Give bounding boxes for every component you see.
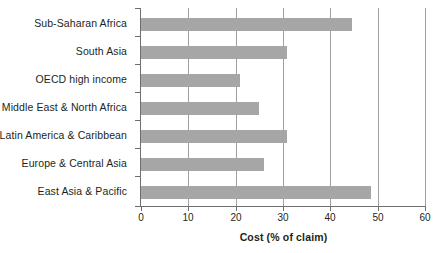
y-axis-tick-mark [135,8,141,9]
y-axis-tick-label: South Asia [76,46,127,58]
x-axis-tick-mark [283,206,284,211]
x-axis-tick-label: 0 [138,212,144,223]
x-axis-tick-mark [141,206,142,211]
bar-oecd-high-income[interactable] [141,74,240,87]
x-axis-tick-label: 50 [372,212,383,223]
y-axis-tick-label: Middle East & North Africa [2,102,127,114]
y-axis-label-row: South Asia [0,38,134,66]
bar-east-asia-pacific[interactable] [141,186,371,199]
x-axis-tick-label: 20 [230,212,241,223]
y-axis-category-labels: Sub-Saharan Africa South Asia OECD high … [0,10,134,206]
x-axis-tick-mark [236,206,237,211]
y-axis-label-row: Middle East & North Africa [0,94,134,122]
y-axis-tick-label: Latin America & Caribbean [0,130,127,142]
x-axis-tick-mark [378,206,379,211]
y-axis-label-row: Sub-Saharan Africa [0,10,134,38]
bar-chart: Sub-Saharan Africa South Asia OECD high … [0,0,440,253]
bar-row [141,10,425,38]
y-axis-tick-label: OECD high income [36,74,127,86]
y-axis-label-row: OECD high income [0,66,134,94]
bar-row [141,178,425,206]
bars-layer [141,10,425,206]
y-axis-label-row: East Asia & Pacific [0,178,134,206]
x-axis-tick-label: 10 [182,212,193,223]
y-axis-tick-label: East Asia & Pacific [38,186,127,198]
x-axis-tick-label: 30 [277,212,288,223]
y-axis-label-row: Latin America & Caribbean [0,122,134,150]
bar-south-asia[interactable] [141,46,287,59]
y-axis-tick-label: Europe & Central Asia [22,158,127,170]
bar-row [141,122,425,150]
x-axis-tick-label: 60 [419,212,430,223]
bar-row [141,150,425,178]
y-axis-label-row: Europe & Central Asia [0,150,134,178]
bar-europe-central-asia[interactable] [141,158,264,171]
x-axis-tick-label: 40 [324,212,335,223]
bar-row [141,38,425,66]
bar-middle-east-north-africa[interactable] [141,102,259,115]
bar-latin-america-caribbean[interactable] [141,130,287,143]
bar-sub-saharan-africa[interactable] [141,18,352,31]
x-axis-title: Cost (% of claim) [141,231,426,243]
bar-row [141,66,425,94]
gridline-60 [425,8,426,206]
bar-row [141,94,425,122]
x-axis-tick-mark [425,206,426,211]
y-axis-tick-label: Sub-Saharan Africa [34,18,127,30]
x-axis-tick-mark [188,206,189,211]
x-axis-tick-mark [330,206,331,211]
